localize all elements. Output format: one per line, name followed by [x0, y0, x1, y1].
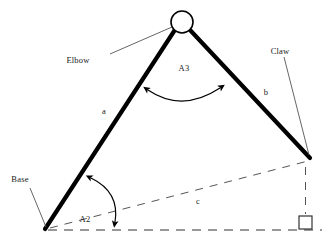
label-segment-c: c [196, 196, 200, 206]
label-segment-a: a [102, 106, 106, 116]
robot-arm-diagram: Elbow Claw Base A3 A2 a b c [0, 0, 330, 245]
label-segment-b: b [264, 87, 268, 97]
diagram-canvas: Elbow Claw Base A3 A2 a b c [0, 0, 330, 245]
square-gripper-icon [299, 216, 312, 229]
label-elbow: Elbow [66, 55, 90, 65]
arm-segment-a [45, 31, 175, 230]
circle-joint-icon [171, 11, 193, 33]
label-claw: Claw [271, 46, 290, 56]
base-leader-line [30, 188, 46, 227]
label-base: Base [11, 174, 28, 184]
claw-leader-line [284, 57, 309, 155]
label-angle-a3: A3 [179, 63, 190, 73]
single-arrow-arc-icon [91, 178, 116, 222]
double-arrow-arc-icon [148, 88, 220, 101]
label-angle-a2: A2 [80, 214, 91, 224]
